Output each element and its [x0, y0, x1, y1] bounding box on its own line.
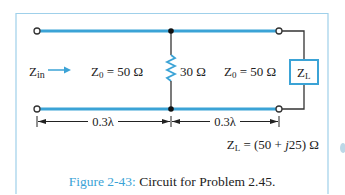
load-terminal-bottom [276, 106, 282, 112]
load-eq-label: Z [227, 137, 235, 152]
line1-z0-value: = 50 Ω [103, 64, 143, 79]
load-eq-prefix: = (50 + [240, 137, 285, 152]
junction-dot-top [168, 28, 174, 34]
caption-text: Circuit for Problem 2.45. [136, 174, 275, 189]
shunt-resistor-30-ohm [167, 28, 175, 112]
page-edge-mark [340, 143, 345, 153]
zin-arrow-icon [48, 67, 71, 74]
circuit-figure: ZL Zin Z0 = 50 Ω 30 Ω Z0 = 50 Ω 0.3λ [0, 0, 345, 194]
line1-length: 0.3λ [92, 115, 114, 129]
load-eq-suffix: 25) Ω [289, 137, 319, 152]
load-wire-bottom [282, 84, 304, 109]
load-wire-top [282, 31, 304, 60]
input-terminal-top [34, 28, 40, 34]
svg-text:ZL = (50 + j25) Ω: ZL = (50 + j25) Ω [227, 137, 319, 153]
svg-text:Zin: Zin [29, 64, 45, 80]
svg-text:Z0 = 50 Ω: Z0 = 50 Ω [91, 64, 143, 80]
figure-frame [16, 14, 328, 195]
figure-number: Figure 2-43: [69, 174, 136, 189]
resistor-value: 30 Ω [180, 64, 206, 79]
load-box-sub: L [305, 71, 311, 81]
line2-length: 0.3λ [214, 115, 236, 129]
line1-z0-label: Z [91, 64, 99, 79]
figure-caption: Figure 2-43: Circuit for Problem 2.45. [16, 174, 328, 190]
load-terminal-top [276, 28, 282, 34]
zin-label: Z [29, 64, 37, 79]
line2-z0-label: Z [224, 64, 232, 79]
line2-z0-value: = 50 Ω [236, 64, 276, 79]
zin-sub: in [37, 69, 45, 80]
input-terminal-bottom [34, 106, 40, 112]
svg-text:Z0 = 50 Ω: Z0 = 50 Ω [224, 64, 276, 80]
load-box-label: Z [297, 65, 305, 80]
junction-dot-bottom [168, 106, 174, 112]
